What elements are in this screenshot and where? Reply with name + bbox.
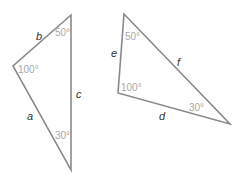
diagram-canvas: b c a 50° 100° 30° e f d 50° 100° 30° bbox=[0, 0, 243, 183]
angle-label-50: 50° bbox=[55, 27, 70, 38]
side-label-a: a bbox=[27, 110, 33, 122]
side-label-f: f bbox=[177, 56, 181, 68]
angle-label-30: 30° bbox=[189, 102, 204, 113]
side-label-d: d bbox=[159, 110, 166, 122]
side-label-b: b bbox=[36, 30, 42, 42]
angle-label-100: 100° bbox=[18, 64, 39, 75]
side-label-c: c bbox=[76, 88, 82, 100]
triangle-abc: b c a 50° 100° 30° bbox=[13, 15, 82, 170]
angle-label-100: 100° bbox=[121, 82, 142, 93]
triangle-def: e f d 50° 100° 30° bbox=[111, 14, 230, 124]
angle-label-30: 30° bbox=[55, 130, 70, 141]
angle-label-50: 50° bbox=[125, 31, 140, 42]
side-label-e: e bbox=[111, 47, 117, 59]
